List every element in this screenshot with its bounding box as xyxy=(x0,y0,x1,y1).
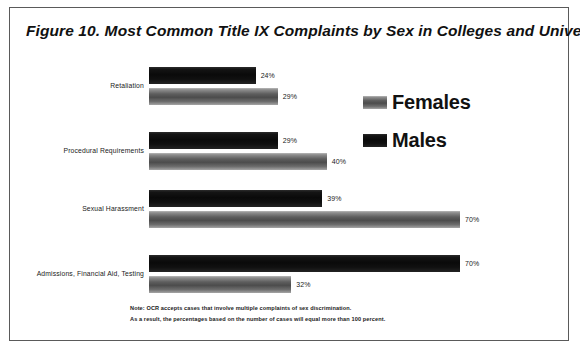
bar-value-label: 70% xyxy=(465,260,479,267)
chart-plot-area: Retaliation24%29%Procedural Requirements… xyxy=(0,0,580,353)
bar-value-label: 39% xyxy=(327,195,341,202)
bar-value-label: 70% xyxy=(465,216,479,223)
bar-value-label: 29% xyxy=(283,137,297,144)
legend-swatch-males xyxy=(363,134,387,147)
category-label: Procedural Requirements xyxy=(63,147,144,154)
category-label: Sexual Harassment xyxy=(82,205,144,212)
legend-swatch-females xyxy=(363,96,387,109)
bar-value-label: 24% xyxy=(261,72,275,79)
legend-label: Females xyxy=(392,92,471,112)
category-label: Retaliation xyxy=(110,82,144,89)
bar-value-label: 32% xyxy=(296,281,310,288)
bar-females xyxy=(149,211,460,228)
footnote-line: As a result, the percentages based on th… xyxy=(130,314,530,325)
bar-value-label: 40% xyxy=(332,158,346,165)
category-label: Admissions, Financial Aid, Testing xyxy=(37,270,144,277)
bar-females xyxy=(149,88,278,105)
legend-item-males: Males xyxy=(363,130,471,150)
chart-legend: FemalesMales xyxy=(363,92,471,168)
bar-males xyxy=(149,190,322,207)
bar-females xyxy=(149,276,291,293)
bar-females xyxy=(149,153,327,170)
legend-label: Males xyxy=(392,130,447,150)
bar-males xyxy=(149,132,278,149)
bar-value-label: 29% xyxy=(283,93,297,100)
figure-footnote: Note: OCR accepts cases that involve mul… xyxy=(130,303,530,324)
bar-males xyxy=(149,67,256,84)
footnote-line: Note: OCR accepts cases that involve mul… xyxy=(130,303,530,314)
bar-males xyxy=(149,255,460,272)
legend-item-females: Females xyxy=(363,92,471,112)
